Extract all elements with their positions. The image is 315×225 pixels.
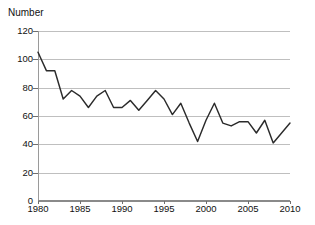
x-tick-label-1980: 1980 <box>27 204 48 214</box>
line-chart: Number 020406080100120 19801985199019952… <box>0 0 315 225</box>
x-tick-label-1985: 1985 <box>69 204 90 214</box>
x-tick-label-1990: 1990 <box>111 204 132 214</box>
x-tick-label-1995: 1995 <box>153 204 174 214</box>
x-tick-label-2010: 2010 <box>279 204 300 214</box>
x-tick-label-2000: 2000 <box>195 204 216 214</box>
x-axis-ticks: 1980198519901995200020052010 <box>0 0 315 225</box>
x-tick-label-2005: 2005 <box>237 204 258 214</box>
